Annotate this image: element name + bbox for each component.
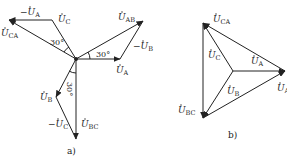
label-UAB-b-cut: UA (277, 83, 287, 95)
label-UCA: UCA (1, 28, 19, 40)
label-neg-UC: −UC (48, 119, 68, 131)
label-UCA-b: UCA (213, 14, 231, 26)
label-UC: UC (58, 14, 71, 26)
panel-a: 30° 30° 30° −UA UC UCA UAB −UB UA UB −UC… (1, 6, 153, 156)
vector-UC-b (203, 23, 233, 71)
vector-neg-UC (56, 97, 76, 139)
label-UC-b: UC (208, 50, 221, 62)
label-UB-b: UB (227, 86, 240, 98)
label-UBC: UBC (81, 119, 98, 131)
label-neg-UA: −UA (20, 7, 40, 19)
angle-label-right: 30° (96, 50, 110, 59)
angle-arc-bottom (69, 71, 76, 73)
label-UAB: UAB (118, 12, 135, 24)
panel-b: UCA UC UA UB UBC UA b) (178, 13, 287, 140)
label-UB: UB (40, 92, 53, 104)
vector-UAB-b (203, 71, 285, 118)
angle-label-top: 30° (50, 38, 64, 47)
phasor-diagram: 30° 30° 30° −UA UC UCA UAB −UB UA UB −UC… (0, 0, 287, 165)
caption-b: b) (228, 130, 237, 140)
caption-a: a) (67, 146, 76, 156)
angle-label-bottom: 30° (65, 82, 74, 96)
vector-neg-UB (120, 21, 143, 59)
vector-UCA-b (203, 23, 285, 71)
angle-arc-right (88, 52, 90, 59)
label-neg-UB: −UB (133, 41, 153, 53)
label-UA: UA (116, 65, 129, 77)
angle-arc-top (64, 47, 69, 52)
label-UBC-b: UBC (178, 105, 195, 117)
